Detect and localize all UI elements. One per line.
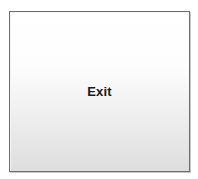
exit-button[interactable]: Exit	[9, 11, 190, 172]
exit-button-label: Exit	[87, 84, 112, 99]
